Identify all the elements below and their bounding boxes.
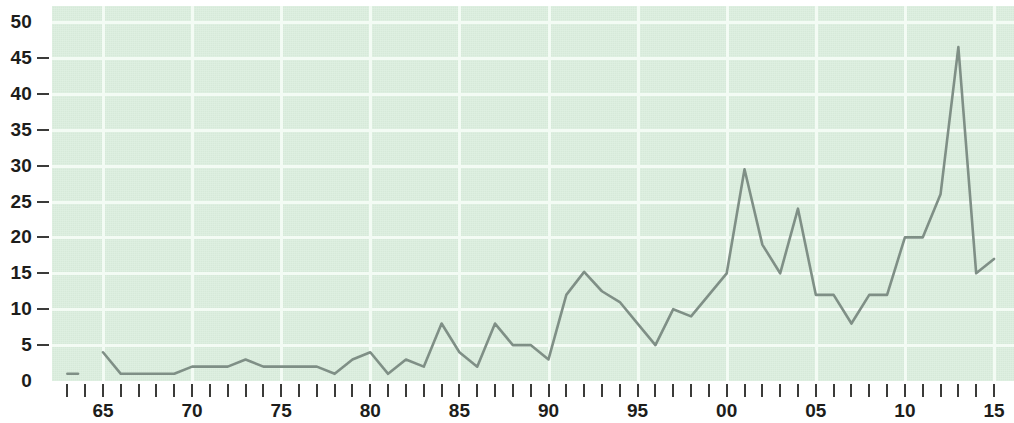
x-tick-mark <box>387 384 389 397</box>
x-tick-mark <box>351 384 353 397</box>
x-tick-mark <box>922 384 924 397</box>
y-tick-label: 40 <box>10 83 32 105</box>
x-tick-mark <box>280 384 282 397</box>
x-tick-mark <box>744 384 746 397</box>
y-tick-mark <box>37 236 49 238</box>
x-tick-mark <box>245 384 247 397</box>
x-tick-mark <box>316 384 318 397</box>
x-tick-mark <box>494 384 496 397</box>
x-tick-mark <box>940 384 942 397</box>
y-tick-mark <box>37 57 49 59</box>
x-tick-mark <box>565 384 567 397</box>
x-tick-mark <box>476 384 478 397</box>
y-axis: 05101520253035404550 <box>0 0 52 390</box>
x-tick-mark <box>797 384 799 397</box>
x-tick-label: 70 <box>182 400 203 422</box>
x-tick-label: 05 <box>805 400 826 422</box>
y-tick-label: 45 <box>10 47 32 69</box>
x-tick-mark <box>637 384 639 397</box>
y-tick-mark <box>37 165 49 167</box>
x-tick-mark <box>601 384 603 397</box>
x-tick-mark <box>815 384 817 397</box>
x-tick-mark <box>957 384 959 397</box>
y-tick-mark <box>37 201 49 203</box>
x-tick-mark <box>975 384 977 397</box>
x-tick-label: 65 <box>92 400 113 422</box>
x-tick-mark <box>726 384 728 397</box>
x-tick-label: 95 <box>627 400 648 422</box>
x-tick-mark <box>833 384 835 397</box>
y-tick-label: 35 <box>10 119 32 141</box>
x-tick-mark <box>262 384 264 397</box>
x-tick-mark <box>173 384 175 397</box>
y-tick-label: 30 <box>10 155 32 177</box>
y-tick-label: 0 <box>21 370 32 392</box>
series-polyline <box>103 47 994 374</box>
x-tick-label: 80 <box>360 400 381 422</box>
x-tick-mark <box>690 384 692 397</box>
x-tick-mark <box>120 384 122 397</box>
y-tick-mark <box>37 272 49 274</box>
y-tick-label: 20 <box>10 226 32 248</box>
y-tick-mark <box>37 308 49 310</box>
x-tick-mark <box>209 384 211 397</box>
x-tick-mark <box>227 384 229 397</box>
x-tick-mark <box>512 384 514 397</box>
y-tick-mark <box>37 129 49 131</box>
x-tick-mark <box>298 384 300 397</box>
x-tick-mark <box>530 384 532 397</box>
x-tick-mark <box>708 384 710 397</box>
x-tick-mark <box>548 384 550 397</box>
y-tick-label: 50 <box>10 11 32 33</box>
x-tick-mark <box>84 384 86 397</box>
x-tick-mark <box>155 384 157 397</box>
x-tick-mark <box>583 384 585 397</box>
x-tick-mark <box>138 384 140 397</box>
x-tick-mark <box>654 384 656 397</box>
x-tick-mark <box>441 384 443 397</box>
x-tick-mark <box>993 384 995 397</box>
x-axis: 6570758085909500051015 <box>52 381 1014 423</box>
x-tick-label: 90 <box>538 400 559 422</box>
x-tick-mark <box>761 384 763 397</box>
y-tick-mark <box>37 344 49 346</box>
y-tick-label: 10 <box>10 298 32 320</box>
line-chart: 05101520253035404550 6570758085909500051… <box>0 0 1014 423</box>
x-tick-label: 15 <box>983 400 1004 422</box>
y-tick-label: 5 <box>21 334 32 356</box>
x-tick-mark <box>191 384 193 397</box>
x-tick-mark <box>405 384 407 397</box>
x-tick-mark <box>672 384 674 397</box>
x-tick-mark <box>619 384 621 397</box>
plot-area <box>52 6 1014 381</box>
y-tick-label: 25 <box>10 191 32 213</box>
x-tick-mark <box>423 384 425 397</box>
series-line <box>52 6 1014 381</box>
x-tick-mark <box>369 384 371 397</box>
x-tick-mark <box>779 384 781 397</box>
x-tick-mark <box>850 384 852 397</box>
x-tick-mark <box>886 384 888 397</box>
x-tick-mark <box>102 384 104 397</box>
x-tick-label: 75 <box>271 400 292 422</box>
x-tick-mark <box>334 384 336 397</box>
x-tick-mark <box>904 384 906 397</box>
x-tick-label: 00 <box>716 400 737 422</box>
x-tick-label: 85 <box>449 400 470 422</box>
y-tick-label: 15 <box>10 262 32 284</box>
x-tick-label: 10 <box>894 400 915 422</box>
x-tick-mark <box>66 384 68 397</box>
x-tick-mark <box>868 384 870 397</box>
y-tick-mark <box>37 93 49 95</box>
x-tick-mark <box>458 384 460 397</box>
